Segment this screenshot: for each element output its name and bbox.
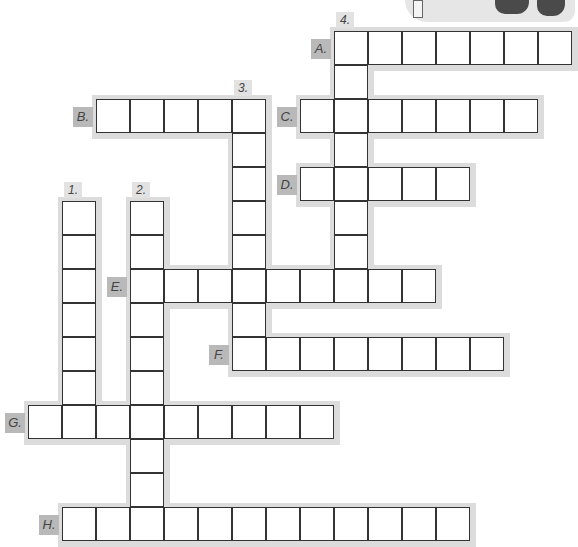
crossword-cell[interactable] <box>130 405 164 439</box>
crossword-cell[interactable] <box>334 133 368 167</box>
crossword-cell[interactable] <box>232 507 266 541</box>
down-clue-label: 3. <box>234 80 252 96</box>
crossword-cell[interactable] <box>198 507 232 541</box>
crossword-cell[interactable] <box>504 31 538 65</box>
crossword-cell[interactable] <box>368 337 402 371</box>
crossword-cell[interactable] <box>130 439 164 473</box>
crossword-cell[interactable] <box>62 507 96 541</box>
crossword-cell[interactable] <box>402 269 436 303</box>
crossword-cell[interactable] <box>62 201 96 235</box>
crossword-cell[interactable] <box>232 99 266 133</box>
book-icon <box>413 0 423 18</box>
crossword-cell[interactable] <box>436 31 470 65</box>
crossword-cell[interactable] <box>368 269 402 303</box>
crossword-cell[interactable] <box>402 337 436 371</box>
crossword-cell[interactable] <box>436 337 470 371</box>
crossword-cell[interactable] <box>164 405 198 439</box>
crossword-cell[interactable] <box>538 31 572 65</box>
crossword-cell[interactable] <box>62 269 96 303</box>
crossword-cell[interactable] <box>130 337 164 371</box>
crossword-cell[interactable] <box>232 167 266 201</box>
crossword-cell[interactable] <box>232 201 266 235</box>
crossword-cell[interactable] <box>300 99 334 133</box>
crossword-cell[interactable] <box>130 473 164 507</box>
crossword-cell[interactable] <box>130 371 164 405</box>
crossword-cell[interactable] <box>402 507 436 541</box>
crossword-cell[interactable] <box>334 167 368 201</box>
crossword-cell[interactable] <box>62 371 96 405</box>
crossword-cell[interactable] <box>164 99 198 133</box>
crossword-cell[interactable] <box>28 405 62 439</box>
across-clue-label: G. <box>5 413 25 433</box>
crossword-cell[interactable] <box>300 269 334 303</box>
crossword-cell[interactable] <box>470 31 504 65</box>
crossword-cell[interactable] <box>436 507 470 541</box>
crossword-cell[interactable] <box>198 405 232 439</box>
crossword-cell[interactable] <box>130 235 164 269</box>
crossword-cell[interactable] <box>130 201 164 235</box>
crossword-cell[interactable] <box>368 99 402 133</box>
crossword-cell[interactable] <box>232 269 266 303</box>
crossword-cell[interactable] <box>130 303 164 337</box>
crossword-cell[interactable] <box>62 235 96 269</box>
crossword-cell[interactable] <box>300 507 334 541</box>
crossword-cell[interactable] <box>334 337 368 371</box>
crossword-cell[interactable] <box>368 167 402 201</box>
crossword-cell[interactable] <box>436 167 470 201</box>
across-clue-label: F. <box>209 345 229 365</box>
crossword-cell[interactable] <box>96 507 130 541</box>
across-clue-label: B. <box>73 107 93 127</box>
crossword-cell[interactable] <box>130 507 164 541</box>
across-clue-label: E. <box>107 277 127 297</box>
crossword-cell[interactable] <box>470 99 504 133</box>
crossword-cell[interactable] <box>130 99 164 133</box>
crossword-cell[interactable] <box>334 65 368 99</box>
crossword-cell[interactable] <box>334 235 368 269</box>
down-clue-label: 1. <box>64 182 82 198</box>
crossword-cell[interactable] <box>130 269 164 303</box>
crossword-cell[interactable] <box>96 99 130 133</box>
shoes-illustration <box>405 0 575 22</box>
crossword-cell[interactable] <box>266 269 300 303</box>
down-clue-label: 4. <box>336 12 354 28</box>
shoe-icon <box>537 0 565 16</box>
crossword-cell[interactable] <box>334 507 368 541</box>
crossword-cell[interactable] <box>232 337 266 371</box>
crossword-cell[interactable] <box>300 405 334 439</box>
crossword-cell[interactable] <box>334 201 368 235</box>
crossword-cell[interactable] <box>198 269 232 303</box>
crossword-cell[interactable] <box>232 405 266 439</box>
crossword-cell[interactable] <box>470 337 504 371</box>
crossword-cell[interactable] <box>164 507 198 541</box>
crossword-cell[interactable] <box>368 507 402 541</box>
crossword-cell[interactable] <box>232 133 266 167</box>
shoe-icon <box>495 0 529 14</box>
across-clue-label: H. <box>39 515 59 535</box>
crossword-cell[interactable] <box>232 303 266 337</box>
crossword-cell[interactable] <box>300 167 334 201</box>
crossword-cell[interactable] <box>62 405 96 439</box>
across-clue-label: C. <box>277 107 297 127</box>
crossword-cell[interactable] <box>96 405 130 439</box>
crossword-cell[interactable] <box>300 337 334 371</box>
crossword-cell[interactable] <box>164 269 198 303</box>
crossword-cell[interactable] <box>62 337 96 371</box>
crossword-cell[interactable] <box>334 31 368 65</box>
crossword-cell[interactable] <box>62 303 96 337</box>
crossword-cell[interactable] <box>504 99 538 133</box>
crossword-cell[interactable] <box>334 269 368 303</box>
across-clue-label: D. <box>277 175 297 195</box>
crossword-cell[interactable] <box>402 99 436 133</box>
crossword-cell[interactable] <box>266 337 300 371</box>
crossword-cell[interactable] <box>266 507 300 541</box>
crossword-cell[interactable] <box>334 99 368 133</box>
crossword-cell[interactable] <box>232 235 266 269</box>
down-clue-label: 2. <box>132 182 150 198</box>
crossword-cell[interactable] <box>266 405 300 439</box>
crossword-cell[interactable] <box>368 31 402 65</box>
crossword-cell[interactable] <box>402 167 436 201</box>
crossword-cell[interactable] <box>198 99 232 133</box>
crossword-cell[interactable] <box>436 99 470 133</box>
across-clue-label: A. <box>311 39 331 59</box>
crossword-cell[interactable] <box>402 31 436 65</box>
